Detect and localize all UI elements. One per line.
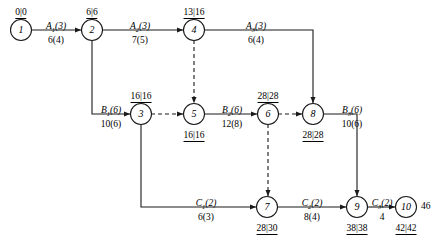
edge-float-B3: (6) (351, 105, 362, 115)
edge-duration-C2: 8(4) (304, 213, 320, 223)
node-label-1: 1 (19, 25, 24, 35)
edge-label-B2: B2(6) (222, 106, 242, 117)
node-time-7: 28|30 (257, 224, 278, 235)
edge-float-A2: (3) (139, 21, 150, 31)
edge-label-C2: C2(2) (302, 199, 323, 210)
node-time-1: 0|0 (15, 8, 26, 19)
edge-float-B1: (6) (110, 105, 121, 115)
node-time-9: 38|38 (347, 224, 368, 235)
edge-label-C1: C1(2) (196, 199, 217, 210)
node-label-5: 5 (192, 109, 197, 119)
edge-label-A3: A3(3) (246, 22, 266, 33)
node-label-4: 4 (192, 25, 197, 35)
edge-float-A1: (3) (55, 21, 66, 31)
edge-duration-B1: 10(6) (101, 120, 122, 130)
network-edges-layer (0, 0, 435, 240)
edge-duration-A1: 6(4) (48, 36, 64, 46)
node-label-6: 6 (266, 109, 271, 119)
edge-duration-C3: 4 (380, 213, 385, 223)
project-duration-value: 46 (421, 202, 431, 212)
node-label-8: 8 (311, 109, 316, 119)
edge-duration-C1: 6(3) (198, 213, 214, 223)
node-label-2: 2 (90, 25, 95, 35)
node-label-3: 3 (139, 109, 144, 119)
edge-label-A1: A1(3) (46, 22, 66, 33)
node-time-8: 28|28 (303, 131, 324, 142)
node-time-5: 16|16 (184, 131, 205, 142)
edge-label-B1: B1(6) (101, 106, 121, 117)
node-time-10: 42|42 (396, 224, 417, 235)
node-label-7: 7 (265, 202, 270, 212)
node-label-9: 9 (355, 202, 360, 212)
network-diagram-canvas: 1 2 4 3 5 6 8 7 9 10 0|0 6|6 13|16 16|16… (0, 0, 435, 240)
node-time-6: 28|28 (258, 92, 279, 103)
node-time-3: 16|16 (131, 92, 152, 103)
edge-float-B2: (6) (231, 105, 242, 115)
edge-label-B3: B3(6) (342, 106, 362, 117)
edge-duration-B3: 10(6) (342, 120, 363, 130)
edge-float-C3: (2) (381, 198, 392, 208)
node-time-4: 13|16 (184, 8, 205, 19)
edge-label-A2: A2(3) (130, 22, 150, 33)
edge-duration-A2: 7(5) (132, 36, 148, 46)
edge-duration-A3: 6(4) (248, 36, 264, 46)
edge-2-3 (92, 40, 130, 114)
edge-float-C2: (2) (311, 198, 322, 208)
node-label-10: 10 (401, 202, 411, 212)
edge-float-A3: (3) (255, 21, 266, 31)
edge-float-C1: (2) (205, 198, 216, 208)
edge-duration-B2: 12(8) (222, 120, 243, 130)
edge-label-C3: C3(2) (372, 199, 393, 210)
node-time-2: 6|6 (86, 8, 97, 19)
